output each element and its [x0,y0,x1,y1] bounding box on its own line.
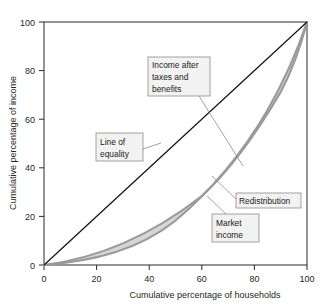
x-tick-labels: 0 20 40 60 80 100 [41,274,314,284]
x-axis-ticks [44,265,307,270]
y-axis-ticks [39,22,44,265]
callout-income-after-line1: Income after [152,60,199,70]
callout-line-of-equality-line1: Line of [100,137,126,147]
lorenz-curve-figure: 0 20 40 60 80 100 0 20 40 60 80 100 Cumu… [0,0,331,306]
y-tick-label-60: 60 [25,115,35,125]
y-tick-label-80: 80 [25,66,35,76]
callout-market-income-line1: Market [216,218,242,228]
leader-line-of-equality [143,143,161,149]
callout-leader-lines [143,96,243,214]
y-tick-label-40: 40 [25,163,35,173]
callout-market-income-line2: income [216,230,243,240]
x-tick-label-20: 20 [92,274,102,284]
leader-market-income [207,196,226,214]
callout-line-of-equality-line2: equality [100,149,130,159]
x-tick-label-80: 80 [249,274,259,284]
x-axis-title: Cumulative percentage of households [129,290,281,300]
x-tick-label-40: 40 [144,274,154,284]
leader-redistribution [212,176,236,199]
chart-canvas: 0 20 40 60 80 100 0 20 40 60 80 100 Cumu… [0,0,331,306]
callout-line-of-equality[interactable]: Line of equality [96,133,143,161]
callout-income-after-taxes[interactable]: Income after taxes and benefits [148,57,210,96]
x-tick-label-60: 60 [197,274,207,284]
callout-redistribution-line1: Redistribution [239,196,291,206]
x-tick-label-0: 0 [41,274,46,284]
callout-market-income[interactable]: Market income [212,214,259,242]
callout-income-after-line3: benefits [152,84,181,94]
y-tick-label-0: 0 [30,261,35,271]
leader-income-after [199,96,243,166]
callout-income-after-line2: taxes and [152,72,189,82]
y-tick-labels: 0 20 40 60 80 100 [20,18,35,271]
x-tick-label-100: 100 [299,274,314,284]
callout-redistribution[interactable]: Redistribution [236,193,301,208]
y-tick-label-100: 100 [20,18,35,28]
y-tick-label-20: 20 [25,212,35,222]
y-axis-title: Cumulative percentage of income [8,76,18,210]
